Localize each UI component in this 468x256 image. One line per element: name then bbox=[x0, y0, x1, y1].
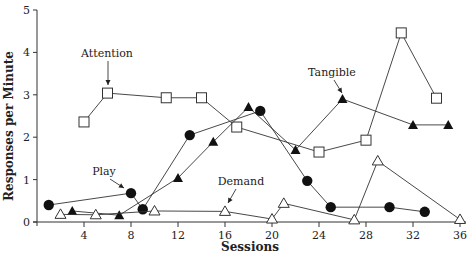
open-square-marker bbox=[79, 117, 89, 127]
open-square-marker bbox=[314, 147, 324, 157]
open-square-marker bbox=[396, 28, 406, 38]
open-square-marker bbox=[232, 122, 242, 132]
filled-circle-marker bbox=[126, 188, 136, 198]
filled-circle-marker bbox=[138, 204, 148, 214]
axes: 0123454812162024283236 bbox=[23, 4, 467, 242]
filled-circle-marker bbox=[420, 207, 430, 217]
filled-triangle-marker bbox=[408, 120, 418, 129]
filled-triangle-marker bbox=[244, 102, 254, 111]
y-tick-label: 1 bbox=[23, 174, 30, 187]
open-square-marker bbox=[161, 93, 171, 103]
filled-circle-marker bbox=[255, 106, 265, 116]
y-tick-label: 4 bbox=[23, 46, 30, 59]
y-tick-label: 2 bbox=[23, 131, 30, 144]
annotation-play: Play bbox=[92, 165, 124, 188]
filled-triangle-marker bbox=[67, 206, 77, 215]
open-triangle-marker bbox=[278, 198, 289, 208]
x-axis-title: Sessions bbox=[221, 240, 279, 254]
annotation-label: Play bbox=[92, 165, 116, 178]
x-tick-label: 24 bbox=[312, 229, 326, 242]
x-tick-label: 12 bbox=[171, 229, 185, 242]
series-line-attention bbox=[84, 33, 437, 152]
responses-per-minute-chart: 0123454812162024283236 AttentionTangible… bbox=[0, 0, 468, 256]
filled-circle-marker bbox=[302, 176, 312, 186]
open-triangle-marker bbox=[90, 209, 101, 219]
x-tick-label: 36 bbox=[453, 229, 467, 242]
annotation-tangible: Tangible bbox=[308, 66, 356, 93]
series-line-demand bbox=[61, 161, 461, 220]
y-axis-title: Responses per Minute bbox=[2, 51, 16, 201]
open-square-marker bbox=[432, 93, 442, 103]
filled-circle-marker bbox=[44, 200, 54, 210]
open-triangle-marker bbox=[149, 205, 160, 215]
open-square-marker bbox=[103, 88, 113, 98]
open-triangle-marker bbox=[220, 206, 231, 216]
annotation-label: Demand bbox=[218, 175, 264, 188]
series-attention bbox=[79, 28, 442, 157]
y-tick-label: 3 bbox=[23, 89, 30, 102]
arrow-head-icon bbox=[118, 183, 124, 188]
open-triangle-marker bbox=[55, 209, 66, 219]
filled-circle-marker bbox=[185, 130, 195, 140]
open-triangle-marker bbox=[372, 155, 383, 165]
filled-triangle-marker bbox=[338, 94, 348, 103]
x-tick-label: 4 bbox=[81, 229, 88, 242]
annotation-attention: Attention bbox=[80, 47, 133, 85]
x-tick-label: 32 bbox=[406, 229, 420, 242]
y-tick-label: 0 bbox=[23, 216, 30, 229]
x-tick-label: 28 bbox=[359, 229, 373, 242]
x-tick-label: 8 bbox=[128, 229, 135, 242]
arrow-head-icon bbox=[337, 87, 342, 93]
annotation-label: Attention bbox=[80, 47, 133, 60]
open-square-marker bbox=[361, 135, 371, 145]
series-demand bbox=[55, 155, 466, 223]
y-tick-label: 5 bbox=[23, 4, 30, 17]
open-triangle-marker bbox=[455, 214, 466, 224]
filled-circle-marker bbox=[384, 202, 394, 212]
filled-triangle-marker bbox=[443, 120, 453, 129]
filled-circle-marker bbox=[326, 202, 336, 212]
annotation-demand: Demand bbox=[218, 175, 264, 203]
open-square-marker bbox=[197, 93, 207, 103]
annotation-label: Tangible bbox=[308, 66, 356, 79]
arrow-head-icon bbox=[106, 80, 111, 85]
